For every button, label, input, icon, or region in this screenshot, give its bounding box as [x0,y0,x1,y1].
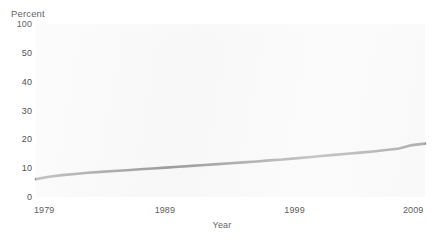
series-polyline [36,144,425,179]
y-tick-label-40: 40 [4,77,32,87]
data-series-line [36,24,425,197]
line-chart-figure: Percent 10050403020100 1979198919992009 … [0,0,444,241]
y-axis-title: Percent [11,8,45,19]
y-tick-label-30: 30 [4,106,32,116]
y-tick-label-100: 100 [4,19,32,29]
x-tick-label-1989: 1989 [155,205,175,215]
y-tick-label-10: 10 [4,163,32,173]
x-tick-label-1999: 1999 [284,205,304,215]
y-tick-label-50: 50 [4,48,32,58]
plot-area [36,24,425,197]
x-axis-title: Year [0,220,444,230]
y-tick-label-0: 0 [4,192,32,202]
y-tick-label-20: 20 [4,134,32,144]
x-tick-label-2009: 2009 [403,205,423,215]
x-tick-label-1979: 1979 [34,205,54,215]
